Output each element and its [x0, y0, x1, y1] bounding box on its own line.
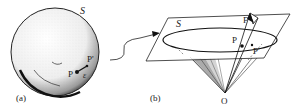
panel-b: S F P P' O (b) — [146, 13, 290, 106]
point-p-dot — [75, 70, 79, 74]
plane-label: S — [176, 18, 181, 29]
panel-a: S P P' ε (a) — [11, 5, 99, 103]
panel-a-label: (a) — [16, 93, 26, 103]
tangent-plane — [146, 14, 290, 61]
sphere-label: S — [80, 5, 85, 16]
point-p-dot-b — [240, 44, 244, 48]
panel-b-label: (b) — [150, 93, 161, 103]
point-p-label: P — [68, 69, 73, 79]
diagram-canvas: S P P' ε (a) S F P P' O — [0, 0, 303, 107]
point-pprime-label-b: P' — [253, 46, 260, 56]
point-pprime-label: P' — [87, 54, 94, 64]
point-pprime-dot — [86, 65, 89, 68]
origin-label: O — [221, 96, 228, 106]
point-p-label-b: P — [232, 35, 237, 45]
point-f-label: F — [243, 15, 248, 25]
